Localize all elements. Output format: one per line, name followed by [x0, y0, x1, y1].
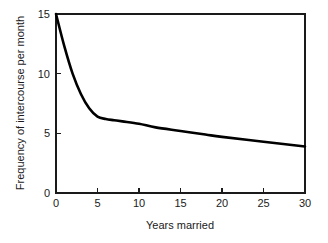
- x-tick-label: 15: [174, 197, 186, 209]
- x-tick-label: 10: [133, 197, 145, 209]
- data-series-group: [56, 14, 305, 146]
- x-tick-label: 25: [257, 197, 269, 209]
- y-tick-label: 5: [44, 127, 50, 139]
- data-line: [56, 14, 305, 146]
- x-axis-ticks: [56, 188, 305, 193]
- chart-figure: 051015202530 051015 Years married Freque…: [0, 0, 328, 243]
- x-axis-title: Years married: [146, 219, 214, 231]
- y-axis-title: Frequency of intercourse per month: [14, 16, 26, 190]
- y-tick-label: 0: [44, 187, 50, 199]
- x-tick-label: 20: [216, 197, 228, 209]
- plot-frame: [56, 14, 305, 193]
- x-tick-label: 30: [299, 197, 311, 209]
- y-axis-tick-labels: 051015: [38, 8, 50, 199]
- line-chart: 051015202530 051015 Years married Freque…: [0, 0, 328, 243]
- y-tick-label: 10: [38, 68, 50, 80]
- x-axis-tick-labels: 051015202530: [53, 197, 311, 209]
- x-tick-label: 0: [53, 197, 59, 209]
- y-tick-label: 15: [38, 8, 50, 20]
- y-axis-ticks: [56, 14, 61, 193]
- x-tick-label: 5: [94, 197, 100, 209]
